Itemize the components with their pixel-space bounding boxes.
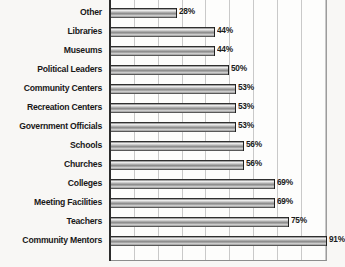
category-label: Teachers [7, 216, 102, 227]
bar-row: 28% [110, 4, 327, 23]
bar [110, 217, 289, 227]
bar-value-label: 44% [217, 44, 233, 54]
bar [110, 27, 215, 37]
bar-row: 44% [110, 42, 327, 61]
category-label: Colleges [7, 178, 102, 189]
bar-row: 50% [110, 61, 327, 80]
bar [110, 198, 275, 208]
bar [110, 84, 236, 94]
category-label: Libraries [7, 26, 102, 37]
bar-value-label: 53% [238, 120, 254, 130]
bar-row: 75% [110, 213, 327, 232]
category-label: Community Mentors [7, 235, 102, 246]
bar-value-label: 56% [246, 139, 262, 149]
bar-value-label: 75% [291, 215, 307, 225]
bar-row: 53% [110, 99, 327, 118]
bar-value-label: 53% [238, 82, 254, 92]
bar-row: 53% [110, 118, 327, 137]
bar-row: 44% [110, 23, 327, 42]
bar-row: 69% [110, 194, 327, 213]
category-label: Community Centers [7, 83, 102, 94]
category-axis: OtherLibrariesMuseumsPolitical LeadersCo… [0, 0, 106, 267]
bar [110, 141, 244, 151]
bar-value-label: 28% [179, 6, 195, 16]
bar-value-label: 69% [277, 177, 293, 187]
bar [110, 179, 275, 189]
bar-value-label: 91% [329, 234, 345, 244]
bar-row: 69% [110, 175, 327, 194]
bar-value-label: 50% [231, 63, 247, 73]
category-label: Meeting Facilities [7, 197, 102, 208]
plot-area: 28%44%44%50%53%53%53%56%56%69%69%75%91% [110, 0, 327, 261]
category-label: Museums [7, 45, 102, 56]
bar-value-label: 44% [217, 25, 233, 35]
bar-row: 56% [110, 156, 327, 175]
bar-row: 53% [110, 80, 327, 99]
bar [110, 103, 236, 113]
category-label: Churches [7, 159, 102, 170]
bar [110, 160, 244, 170]
bar-value-label: 56% [246, 158, 262, 168]
bar-row: 56% [110, 137, 327, 156]
value-axis-line [109, 0, 111, 261]
bar [110, 122, 236, 132]
category-label: Schools [7, 140, 102, 151]
category-label: Political Leaders [7, 64, 102, 75]
category-label: Recreation Centers [7, 102, 102, 113]
bar-row: 91% [110, 232, 327, 251]
bar-value-label: 53% [238, 101, 254, 111]
bar [110, 236, 327, 246]
category-label: Government Officials [7, 121, 102, 132]
bar [110, 46, 215, 56]
category-label: Other [7, 7, 102, 18]
bar-value-label: 69% [277, 196, 293, 206]
bar [110, 65, 229, 75]
bar [110, 8, 177, 18]
